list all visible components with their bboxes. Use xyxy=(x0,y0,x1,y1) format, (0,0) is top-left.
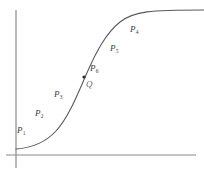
label-p6: P6 xyxy=(90,64,98,73)
label-p5-subscript: 5 xyxy=(116,48,119,54)
label-p2-subscript: 2 xyxy=(41,113,44,119)
label-p2: P2 xyxy=(35,109,43,118)
sigmoid-curve xyxy=(16,10,204,149)
label-p4: P4 xyxy=(130,25,138,34)
label-p6-subscript: 6 xyxy=(96,68,99,74)
label-p3-base: P xyxy=(54,89,60,99)
label-p4-base: P xyxy=(130,24,136,34)
label-p5-base: P xyxy=(110,43,116,53)
figure-svg xyxy=(0,0,204,171)
figure-container: P1P2P3P6P5P4 Q xyxy=(0,0,204,171)
label-p4-subscript: 4 xyxy=(136,29,139,35)
label-p1: P1 xyxy=(17,126,25,135)
label-q: Q xyxy=(86,80,93,89)
label-p3-subscript: 3 xyxy=(60,94,63,100)
label-p2-base: P xyxy=(35,108,41,118)
label-p1-base: P xyxy=(17,125,23,135)
label-p6-base: P xyxy=(90,63,96,73)
label-p1-subscript: 1 xyxy=(23,130,26,136)
label-p5: P5 xyxy=(110,44,118,53)
label-p3: P3 xyxy=(54,90,62,99)
